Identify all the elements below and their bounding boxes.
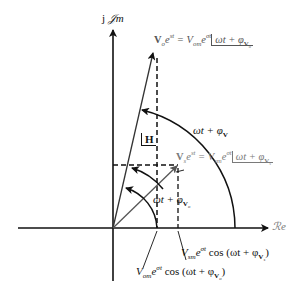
vo-angle-text: ωt + φ	[215, 34, 243, 45]
vs-mag-sub: sm	[214, 157, 222, 164]
imag-script: 𝒥m	[108, 12, 124, 24]
phi-v-text: ωt + φ	[193, 124, 223, 136]
h-angle-arc	[132, 168, 163, 189]
vo-eq: = V	[174, 34, 193, 45]
output-projection-leader	[143, 231, 157, 268]
vo-proj-mag: V	[136, 265, 143, 277]
source-projection-label: Vsmeσt cos (ωt + φVs)	[181, 246, 269, 263]
output-projection-label: Vomeσt cos (ωt + φVo)	[136, 265, 225, 282]
vs-bold: V	[176, 151, 184, 162]
vo-proj-subsub: o	[219, 276, 221, 281]
h-angle-label: H	[141, 134, 156, 145]
vo-bold: V	[154, 34, 162, 45]
source-label-leader	[176, 170, 184, 172]
imaginary-axis-label: j 𝒥m	[102, 13, 124, 24]
vs-angle: ωt + φVs	[232, 151, 273, 163]
vo-proj-func: cos (ωt + φ	[162, 265, 214, 277]
vs-proj-mag-sub: sm	[188, 253, 196, 261]
vo-angle-subsub: o	[249, 44, 251, 49]
phi-vo-text: ωt + φ	[153, 193, 183, 205]
vo-proj-close: )	[222, 265, 226, 277]
h-angle-text: H	[141, 133, 156, 146]
vs-proj-subsub: s	[263, 257, 265, 262]
vo-angle: ωt + φVo	[211, 34, 253, 46]
imag-prefix: j	[102, 12, 105, 24]
output-phasor-label: Voest = Vomeσtωt + φVo	[154, 33, 253, 49]
source-angle-label: ωt + φVo	[153, 194, 190, 210]
vs-mag-exp-sup: σt	[226, 149, 231, 156]
vs-angle-subsub: s	[269, 161, 271, 166]
source-phasor-label: Vsest = Vsmeσtωt + φVs	[176, 150, 273, 166]
phi-v-sub: V	[223, 131, 228, 139]
phi-vo-subsub: o	[188, 205, 190, 210]
real-axis-label: ℛe	[272, 221, 286, 232]
vs-angle-text: ωt + φ	[236, 151, 264, 162]
vs-proj-mag: V	[181, 246, 188, 258]
vs-eq: = V	[195, 151, 214, 162]
output-angle-label: ωt + φV	[193, 125, 228, 139]
vs-proj-close: )	[265, 246, 269, 258]
vs-proj-func: cos (ωt + φ	[206, 246, 258, 258]
